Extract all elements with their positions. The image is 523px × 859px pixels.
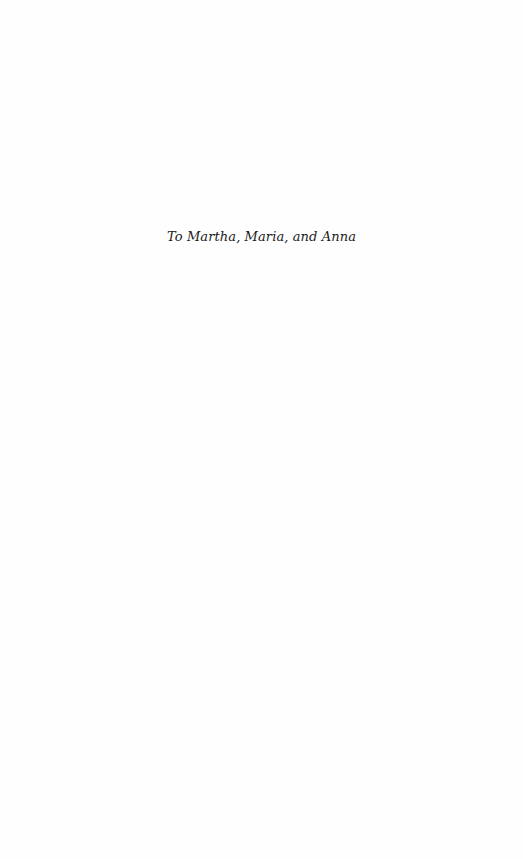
dedication-text: To Martha, Maria, and Anna [0, 229, 523, 244]
book-page: To Martha, Maria, and Anna [0, 0, 523, 859]
